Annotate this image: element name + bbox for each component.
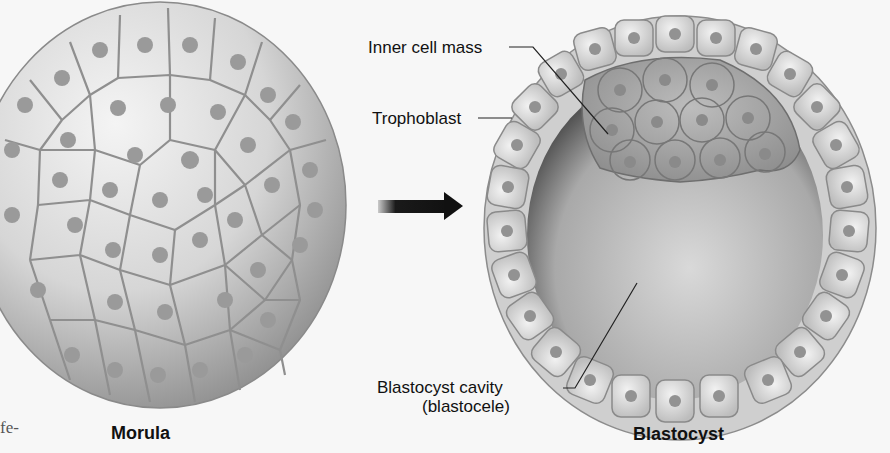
label-blastocele: (blastocele) (422, 397, 510, 416)
caption-blastocyst: Blastocyst (633, 424, 724, 445)
morula-illustration (0, 2, 346, 408)
arrow-icon (378, 192, 463, 220)
label-blastocyst-cavity: Blastocyst cavity (377, 378, 503, 397)
blastocyst-illustration (484, 16, 876, 440)
label-inner-cell-mass: Inner cell mass (368, 38, 482, 57)
cropped-edge-text: fe- (0, 418, 19, 438)
caption-morula: Morula (111, 423, 170, 444)
label-trophoblast: Trophoblast (372, 109, 461, 128)
morula-to-blastocyst-diagram: fe- Inner cell mass Trophoblast Blastocy… (0, 0, 890, 453)
